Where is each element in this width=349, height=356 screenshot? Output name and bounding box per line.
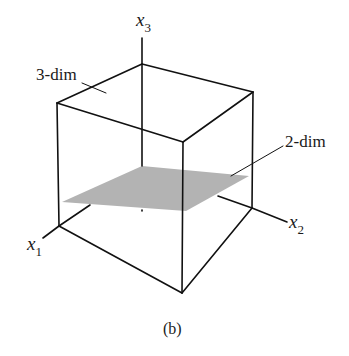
front-vertical-edge <box>182 142 183 293</box>
x3-label: x3 <box>135 9 151 35</box>
x2-label: x2 <box>288 211 304 237</box>
leader-2dim <box>231 146 283 176</box>
left-vertical-edge <box>57 103 59 226</box>
right-vertical-edge <box>252 92 253 208</box>
label-2dim: 2-dim <box>285 132 326 151</box>
bottom-edge-back-right <box>218 196 252 208</box>
leader-3dim <box>82 83 106 93</box>
bottom-edge-front-left <box>59 226 182 293</box>
x2-axis <box>252 208 287 222</box>
cube-diagram: x3 x1 x2 3-dim 2-dim (b) <box>0 0 349 356</box>
bottom-edge-back-left <box>59 205 90 226</box>
x1-axis <box>43 226 59 238</box>
top-edge-front-left <box>57 103 183 142</box>
top-edge-front-right <box>183 92 253 142</box>
x1-label: x1 <box>26 233 42 259</box>
figure-caption: (b) <box>163 320 182 338</box>
label-3dim: 3-dim <box>36 65 77 84</box>
top-edge-back-right <box>142 64 253 92</box>
bottom-edge-front-right <box>182 208 252 293</box>
